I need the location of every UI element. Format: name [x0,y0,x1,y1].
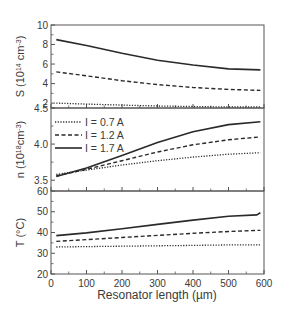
chart-figure: 246810S (1014 cm-3)3.54.04.5n (1018cm-3)… [0,0,286,323]
y-tick-label: 4.5 [34,103,48,114]
series-line-solid [56,40,260,70]
y-tick-label: 20 [37,269,49,280]
panels-group: 246810S (1014 cm-3)3.54.04.5n (1018cm-3)… [14,20,264,280]
panel-frame [51,108,264,191]
y-tick-label: 6 [42,59,48,70]
panel-T: 2030405060T (°C) [14,186,264,280]
y-tick-label: 60 [37,186,49,197]
chart-svg: 246810S (1014 cm-3)3.54.04.5n (1018cm-3)… [0,0,286,323]
series-line-solid [56,213,260,236]
y-tick-label: 30 [37,248,49,259]
x-tick-label: 600 [256,278,273,289]
legend-label: I = 0.7 A [85,116,124,128]
y-tick-label: 3.5 [34,175,48,186]
x-axis-title: Resonator length (µm) [97,288,217,302]
panel-frame [51,25,264,108]
y-tick-label: 4 [42,78,48,89]
y-axis-title-T: T (°C) [14,218,26,247]
panel-S: 246810S (1014 cm-3) [14,20,264,109]
legend: I = 0.7 AI = 1.2 AI = 1.7 A [55,116,124,154]
y-tick-label: 4.0 [34,139,48,150]
x-tick-label: 500 [220,278,237,289]
y-axis-title-S: S (1014 cm-3) [14,36,26,98]
y-tick-label: 10 [37,20,49,31]
y-tick-label: 50 [37,206,49,217]
legend-label: I = 1.2 A [85,129,124,141]
series-line-dashed [56,72,260,91]
legend-item: I = 1.7 A [55,142,124,154]
legend-item: I = 1.2 A [55,129,124,141]
x-tick-label: 0 [48,278,54,289]
panel-n: 3.54.04.5n (1018cm-3) [14,103,264,192]
y-tick-label: 40 [37,227,49,238]
series-line-dotted [56,153,260,175]
x-tick-label: 100 [78,278,95,289]
y-axis-title-n: n (1018cm-3) [14,121,26,178]
series-line-dotted [56,245,260,247]
legend-label: I = 1.7 A [85,142,124,154]
legend-item: I = 0.7 A [55,116,124,128]
y-tick-label: 8 [42,39,48,50]
